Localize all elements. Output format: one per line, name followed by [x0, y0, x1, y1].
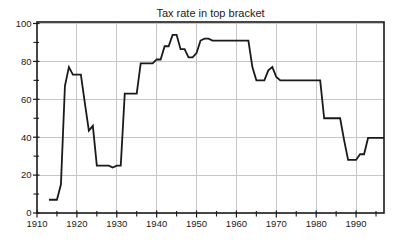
y-tick-label: 0	[26, 207, 31, 218]
tax-rate-chart-figure: Tax rate in top bracket 1910192019301940…	[0, 0, 400, 244]
x-tick-label: 1980	[306, 218, 327, 229]
y-tick-label: 40	[21, 132, 32, 143]
x-tick-label: 1970	[266, 218, 287, 229]
x-tick-label: 1960	[226, 218, 247, 229]
chart-title: Tax rate in top bracket	[37, 7, 384, 19]
x-tick-label: 1930	[106, 218, 127, 229]
y-tick-label: 20	[21, 169, 32, 180]
y-tick-label: 60	[21, 94, 32, 105]
x-tick-label: 1920	[66, 218, 87, 229]
x-tick-label: 1990	[346, 218, 367, 229]
x-tick-label: 1950	[186, 218, 207, 229]
x-tick-label: 1910	[26, 218, 47, 229]
x-tick-label: 1940	[146, 218, 167, 229]
tax-rate-line-chart: 1910192019301940195019601970198019900204…	[0, 0, 400, 244]
y-tick-label: 80	[21, 56, 32, 67]
y-tick-label: 100	[16, 18, 32, 29]
